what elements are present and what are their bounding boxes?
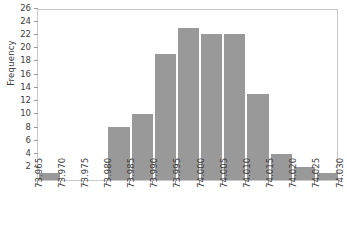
x-tick-label: 74.005 xyxy=(219,158,229,188)
y-tick-mark xyxy=(34,74,38,75)
y-tick-mark xyxy=(34,100,38,101)
y-tick-label: 12 xyxy=(20,95,31,105)
y-tick-mark xyxy=(34,47,38,48)
x-tick-label: 73.965 xyxy=(34,158,44,188)
x-tick-label: 73.980 xyxy=(103,158,113,188)
y-tick-label: 4 xyxy=(26,148,31,158)
x-tick-label: 73.995 xyxy=(172,158,182,188)
y-tick-label: 8 xyxy=(26,122,31,132)
plot-area: 2468101214161820222426 xyxy=(37,9,338,181)
y-axis-title: Frequency xyxy=(6,28,16,98)
y-tick-label: 10 xyxy=(20,108,31,118)
x-tick-label: 74.000 xyxy=(196,158,206,188)
x-tick-label: 73.970 xyxy=(57,158,67,188)
y-tick-label: 14 xyxy=(20,82,31,92)
y-tick-mark xyxy=(34,153,38,154)
y-tick-label: 24 xyxy=(20,16,31,26)
y-tick-label: 22 xyxy=(20,29,31,39)
y-tick-mark xyxy=(34,140,38,141)
bars-layer xyxy=(38,10,337,180)
y-tick-label: 16 xyxy=(20,69,31,79)
y-tick-label: 6 xyxy=(26,135,31,145)
x-tick-label: 74.010 xyxy=(242,158,252,188)
y-tick-label: 26 xyxy=(20,3,31,13)
x-tick-label: 73.985 xyxy=(126,158,136,188)
y-tick-mark xyxy=(34,8,38,9)
y-tick-mark xyxy=(34,34,38,35)
y-tick-label: 18 xyxy=(20,55,31,65)
y-tick-mark xyxy=(34,21,38,22)
x-tick-label: 74.025 xyxy=(311,158,321,188)
x-tick-label: 74.015 xyxy=(265,158,275,188)
x-axis-ticks: 73.96573.97073.97573.98073.98573.99073.9… xyxy=(37,181,338,239)
x-tick-label: 74.030 xyxy=(335,158,345,188)
x-tick-label: 73.975 xyxy=(80,158,90,188)
y-tick-label: 20 xyxy=(20,42,31,52)
y-tick-label: 2 xyxy=(26,161,31,171)
x-tick-label: 73.990 xyxy=(149,158,159,188)
y-tick-mark xyxy=(34,60,38,61)
y-tick-mark xyxy=(34,87,38,88)
histogram-chart: Frequency 2468101214161820222426 73.9657… xyxy=(0,0,347,239)
y-tick-mark xyxy=(34,127,38,128)
x-tick-label: 74.020 xyxy=(288,158,298,188)
y-tick-mark xyxy=(34,113,38,114)
